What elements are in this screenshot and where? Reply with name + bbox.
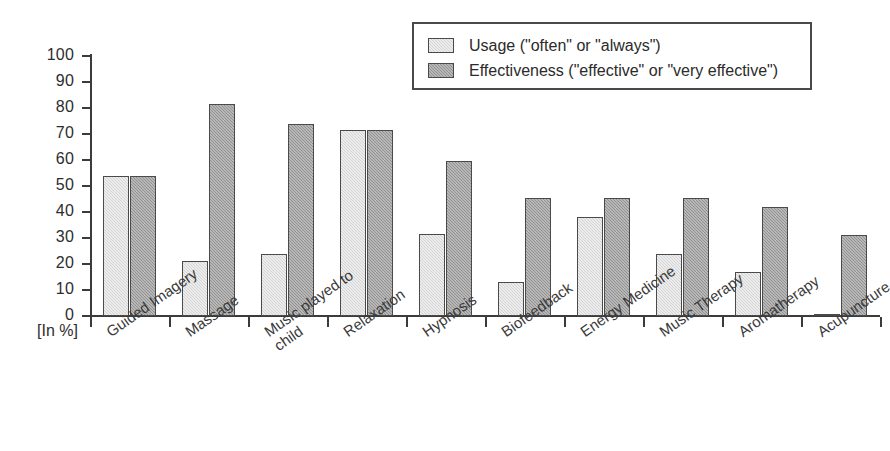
legend-swatch-effectiveness-icon: [428, 63, 454, 78]
x-tick: [406, 317, 408, 327]
y-tick-label-text: 60: [36, 151, 74, 167]
y-tick-label-text: 0: [36, 307, 74, 323]
bar-group: [814, 56, 867, 316]
bar-group: [498, 56, 551, 316]
x-tick: [90, 317, 92, 327]
y-tick-label-text: 90: [36, 73, 74, 89]
chart-legend: Usage ("often" or "always") Effectivenes…: [412, 22, 812, 90]
bar-effectiveness: [367, 130, 393, 316]
y-tick-label-text: 50: [36, 177, 74, 193]
y-tick-label-80: 80: [28, 99, 74, 115]
x-tick: [801, 317, 803, 327]
y-tick-label-text: 100: [36, 47, 74, 63]
y-axis-unit-label: [In %]: [37, 322, 78, 340]
y-tick-label-text: 10: [36, 281, 74, 297]
bar-usage: [577, 217, 603, 316]
x-tick: [169, 317, 171, 327]
legend-item-effectiveness: Effectiveness ("effective" or "very effe…: [428, 58, 798, 83]
y-tick-label-40: 40: [28, 203, 74, 219]
legend-swatch-usage-icon: [428, 38, 454, 53]
y-tick-label-text: 40: [36, 203, 74, 219]
y-tick-label-30: 30: [28, 229, 74, 245]
y-tick-label-text: 20: [36, 255, 74, 271]
y-tick-label-20: 20: [28, 255, 74, 271]
bar-group: [261, 56, 314, 316]
y-tick-label-0: 0: [28, 307, 74, 323]
legend-label-usage: Usage ("often" or "always"): [469, 37, 661, 55]
y-tick-label-100: 100: [28, 47, 74, 63]
x-tick: [564, 317, 566, 327]
y-tick-label-10: 10: [28, 281, 74, 297]
bar-usage: [103, 176, 129, 316]
x-tick: [722, 317, 724, 327]
bar-group: [419, 56, 472, 316]
bar-usage: [419, 234, 445, 316]
x-tick: [643, 317, 645, 327]
x-tick: [248, 317, 250, 327]
plot-area: [90, 56, 880, 316]
y-tick-label-90: 90: [28, 73, 74, 89]
y-tick-label-text: 70: [36, 125, 74, 141]
y-tick-label-text: 30: [36, 229, 74, 245]
bar-chart: 1009080706050403020100 Guided ImageryMas…: [0, 0, 890, 451]
bar-group: [103, 56, 156, 316]
y-tick-label-text: 80: [36, 99, 74, 115]
x-tick: [485, 317, 487, 327]
bar-group: [577, 56, 630, 316]
y-tick-label-50: 50: [28, 177, 74, 193]
x-tick: [880, 317, 882, 327]
legend-item-usage: Usage ("often" or "always"): [428, 33, 798, 58]
bar-usage: [261, 254, 287, 316]
bar-effectiveness: [209, 104, 235, 316]
legend-label-effectiveness: Effectiveness ("effective" or "very effe…: [469, 62, 778, 80]
y-tick-label-70: 70: [28, 125, 74, 141]
bar-group: [735, 56, 788, 316]
bar-effectiveness: [288, 124, 314, 316]
y-tick-label-60: 60: [28, 151, 74, 167]
